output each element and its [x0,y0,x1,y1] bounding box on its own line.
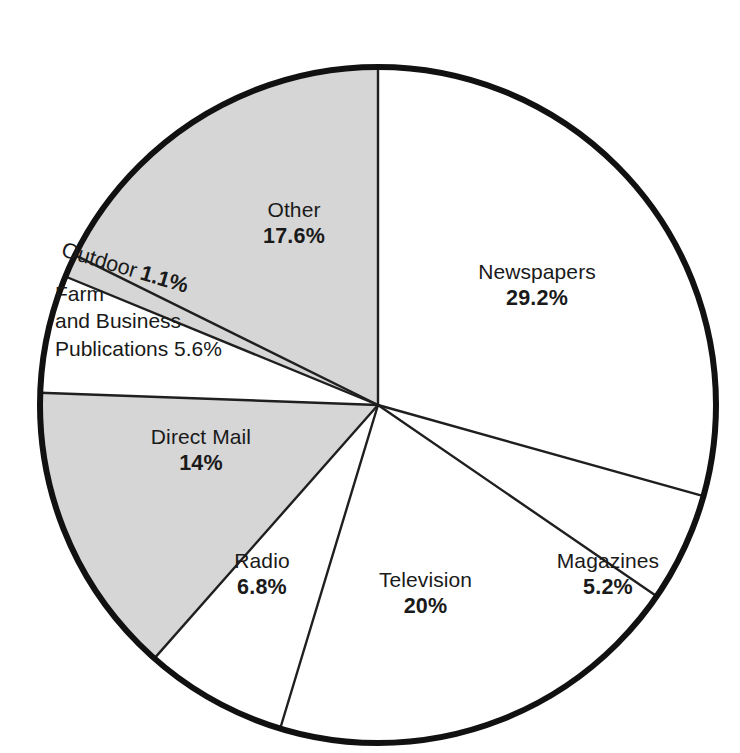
slice-value-magazines: 5.2% [534,574,682,601]
slice-name-direct-mail: Direct Mail [112,424,290,450]
slice-value-radio: 6.8% [214,574,310,601]
slice-label-farm-and-business-publications[interactable]: Farm and Business Publications 5.6% [55,280,222,362]
pie-chart: Newspapers 29.2% Magazines 5.2% Televisi… [0,0,740,753]
slice-label-other[interactable]: Other 17.6% [237,197,351,251]
slice-name-radio: Radio [214,548,310,574]
slice-label-direct-mail[interactable]: Direct Mail 14% [112,424,290,478]
slice-name-other: Other [237,197,351,223]
slice-name-television: Television [353,567,498,593]
slice-value-direct-mail: 14% [112,450,290,477]
slice-name-newspapers: Newspapers [452,259,622,285]
slice-label-radio[interactable]: Radio 6.8% [214,548,310,602]
slice-label-magazines[interactable]: Magazines 5.2% [534,548,682,602]
slice-value-other: 17.6% [237,223,351,250]
slice-name-farm-line-2: and Business [55,307,222,334]
pie-chart-graphic [0,0,740,753]
slice-name-farm-line-3: Publications 5.6% [55,335,222,362]
slice-value-television: 20% [353,593,498,620]
slice-label-newspapers[interactable]: Newspapers 29.2% [452,259,622,313]
slice-name-magazines: Magazines [534,548,682,574]
slice-label-television[interactable]: Television 20% [353,567,498,621]
slice-value-newspapers: 29.2% [452,285,622,312]
